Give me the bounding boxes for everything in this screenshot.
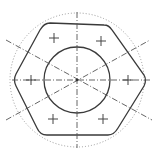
- cross-mark-icon: [49, 33, 59, 43]
- cross-mark-icon: [96, 36, 106, 46]
- hex-nut-drawing: [0, 0, 160, 149]
- cross-mark-icon: [48, 114, 58, 124]
- diagram-canvas: [0, 0, 160, 149]
- cross-mark-icon: [26, 75, 36, 85]
- hexagon-outline: [15, 23, 146, 135]
- cross-mark-icon: [123, 75, 133, 85]
- center-point: [76, 79, 78, 81]
- cross-mark-icon: [98, 114, 108, 124]
